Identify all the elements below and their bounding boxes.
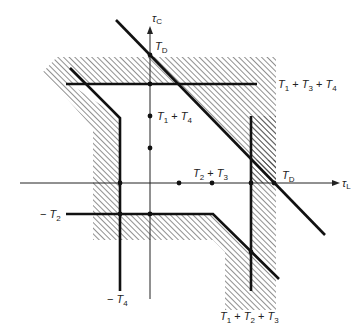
point-c-148 xyxy=(148,146,153,151)
point-t1-t4 xyxy=(148,114,153,119)
point-l-179 xyxy=(177,181,182,186)
point-td-top xyxy=(148,53,153,58)
torque-limit-diagram: τC τL TD TD T1 + T3 + T4 T1 + T4 T2 + T3… xyxy=(0,0,357,330)
line-td-diagonal xyxy=(116,20,325,235)
tau-l-arrow-icon xyxy=(332,180,340,186)
td-right-label: TD xyxy=(282,169,295,184)
point-axis-84 xyxy=(148,82,153,87)
neg-t2-label: − T2 xyxy=(40,208,61,223)
tau-l-label: τL xyxy=(342,177,351,191)
point-neg-t2-axis xyxy=(148,212,153,217)
point-t2-t3 xyxy=(210,181,215,186)
point-bottom-right xyxy=(249,250,254,255)
point-origin-left xyxy=(118,181,123,186)
tau-c-label: τC xyxy=(152,12,162,26)
point-td-right xyxy=(272,181,277,186)
td-top-label: TD xyxy=(155,40,168,55)
point-neg-t2-left xyxy=(118,212,123,217)
t1-t2-t3-label: T1 + T2 + T3 xyxy=(220,310,279,325)
t1-t4-label: T1 + T4 xyxy=(157,110,192,125)
point-right-183 xyxy=(249,181,254,186)
t1-t3-t4-label: T1 + T3 + T4 xyxy=(278,78,337,93)
t2-t3-label: T2 + T3 xyxy=(193,167,228,182)
neg-t4-label: − T4 xyxy=(107,293,128,308)
tau-c-arrow-icon xyxy=(147,26,153,34)
